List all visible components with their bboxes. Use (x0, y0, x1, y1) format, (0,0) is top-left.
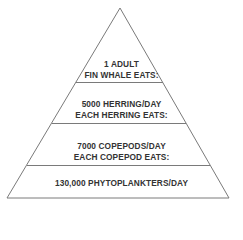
tier-1-label: 1 ADULT FIN WHALE EATS: (0, 59, 243, 81)
tier-1-line-1: 1 ADULT (0, 59, 243, 70)
tier-2-line-2: EACH HERRING EATS: (0, 110, 243, 121)
tier-3-line-2: EACH COPEPOD EATS: (0, 152, 243, 163)
tier-4-label: 130,000 PHYTOPLANKTERS/DAY (0, 178, 243, 189)
tier-3-line-1: 7000 COPEPODS/DAY (0, 141, 243, 152)
tier-2-line-1: 5000 HERRING/DAY (0, 99, 243, 110)
tier-4-line-1: 130,000 PHYTOPLANKTERS/DAY (0, 178, 243, 189)
tier-3-label: 7000 COPEPODS/DAY EACH COPEPOD EATS: (0, 141, 243, 163)
tier-2-label: 5000 HERRING/DAY EACH HERRING EATS: (0, 99, 243, 121)
tier-1-line-2: FIN WHALE EATS: (0, 70, 243, 81)
